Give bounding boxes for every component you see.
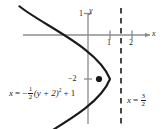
x-axis-arrow bbox=[145, 33, 150, 38]
equation-group: (y + 2) bbox=[34, 88, 59, 98]
equation-exponent: 2 bbox=[59, 87, 62, 93]
equation-fraction: 12 bbox=[28, 86, 34, 101]
y-axis-label: y bbox=[89, 6, 93, 15]
equation-equals: = bbox=[15, 88, 20, 98]
directrix-fraction-numerator: 3 bbox=[141, 93, 147, 100]
x-tick-label-1: 1 bbox=[107, 38, 111, 47]
math-figure: y x 1 −2 1 2 x=−12(y + 2)2+ 1 x=32 bbox=[0, 0, 163, 129]
directrix-fraction: 32 bbox=[141, 93, 147, 108]
y-tick-label-minus-2: −2 bbox=[68, 74, 77, 83]
directrix-equation-label: x=32 bbox=[127, 93, 147, 108]
directrix-lhs: x bbox=[127, 95, 131, 105]
parabola-equation-label: x=−12(y + 2)2+ 1 bbox=[9, 86, 75, 101]
directrix-equals: = bbox=[133, 95, 138, 105]
equation-lhs: x bbox=[9, 88, 13, 98]
parabola-curve bbox=[19, 6, 110, 129]
equation-sign: − bbox=[22, 88, 27, 98]
focus-point-marker bbox=[96, 76, 102, 82]
equation-fraction-numerator: 1 bbox=[28, 86, 34, 93]
x-tick-label-2: 2 bbox=[129, 38, 133, 47]
y-tick-label-1: 1 bbox=[79, 9, 83, 18]
directrix-fraction-denominator: 2 bbox=[141, 100, 147, 108]
graph-canvas bbox=[0, 0, 163, 129]
equation-fraction-denominator: 2 bbox=[28, 93, 34, 101]
equation-constant: + 1 bbox=[63, 88, 75, 98]
x-axis-label: x bbox=[152, 29, 156, 38]
